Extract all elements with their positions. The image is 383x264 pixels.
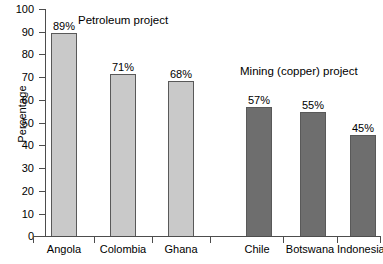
y-tick-label-80: 80 [0,49,34,60]
bar-value-angola: 89% [44,20,84,32]
y-tick-label-100: 100 [0,4,34,15]
group-title-petroleum: Petroleum project [78,14,168,27]
y-tick-label-0: 0 [0,231,34,242]
bar-chart: Percentage 100 90 80 70 60 50 40 30 20 1… [0,0,383,264]
bar-value-indonesia: 45% [343,122,383,134]
bar-ghana [168,81,194,237]
y-tick-label-30: 30 [0,163,34,174]
x-label-botswana: Botswana [283,243,337,256]
y-tick-70 [39,77,45,78]
x-axis-line [33,236,381,237]
y-tick-30 [39,168,45,169]
x-label-indonesia: Indonesia [337,243,383,256]
y-tick-label-90: 90 [0,27,34,38]
y-tick-40 [39,145,45,146]
y-tick-label-20: 20 [0,186,34,197]
y-tick-label-10: 10 [0,209,34,220]
y-tick-50 [39,123,45,124]
x-label-chile: Chile [229,243,285,256]
x-label-colombia: Colombia [93,243,153,256]
y-tick-label-70: 70 [0,72,34,83]
bar-value-colombia: 71% [103,61,143,73]
bar-value-botswana: 55% [293,99,333,111]
x-label-angola: Angola [34,243,94,256]
group-title-mining: Mining (copper) project [240,65,358,78]
bar-value-ghana: 68% [161,68,201,80]
bar-chile [246,107,272,237]
y-tick-label-40: 40 [0,140,34,151]
y-tick-label-60: 60 [0,95,34,106]
bar-angola [51,33,77,237]
y-tick-90 [39,32,45,33]
bar-botswana [300,112,326,237]
bar-value-chile: 57% [239,94,279,106]
y-tick-10 [39,214,45,215]
y-tick-100 [39,9,45,10]
y-tick-80 [39,54,45,55]
y-axis-line [45,9,46,237]
bar-colombia [110,74,136,237]
bar-indonesia [350,135,376,237]
y-tick-label-50: 50 [0,118,34,129]
y-tick-60 [39,100,45,101]
y-tick-20 [39,191,45,192]
x-label-ghana: Ghana [151,243,211,256]
